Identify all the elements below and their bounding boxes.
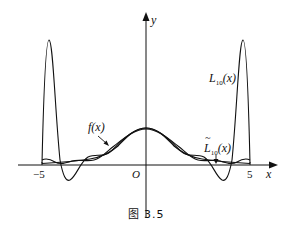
annotation-f: f(x) (88, 120, 109, 146)
label-L10-tilde: L10(x) (203, 141, 231, 157)
tick-label-pos5: 5 (247, 168, 253, 180)
y-axis-label: y (150, 13, 157, 27)
x-axis-label: x (265, 167, 272, 181)
tick-label-neg5: −5 (33, 168, 45, 180)
annotation-L10: L10(x) (208, 71, 236, 87)
label-L10-tilde-arg: (x) (218, 141, 231, 155)
arrow-f-line (98, 136, 106, 143)
label-L10: L10(x) (208, 71, 236, 87)
label-L10-arg: (x) (223, 71, 236, 85)
label-f: f(x) (88, 120, 105, 134)
y-axis-arrow-icon (143, 12, 150, 21)
figure-caption: 图 3.5 (0, 205, 292, 221)
origin-label: O (132, 168, 140, 180)
figure-plot: y x O −5 5 f(x) L10(x) ~ L10(x) (0, 0, 292, 225)
